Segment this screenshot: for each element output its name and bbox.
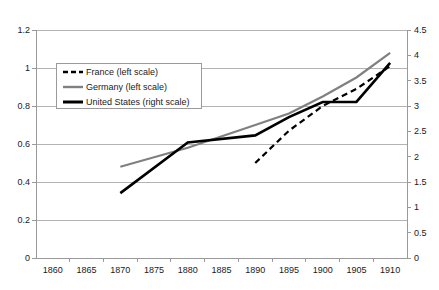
y-axis-right-tick-label: 1.5 bbox=[414, 177, 439, 187]
legend-label-united-states: United States (right scale) bbox=[86, 97, 190, 107]
x-axis-tick-label: 1880 bbox=[171, 265, 205, 275]
y-axis-right-tick-label: 4 bbox=[414, 50, 439, 60]
y-axis-left-tick-label: 0.2 bbox=[2, 215, 30, 225]
x-axis-tick-label: 1870 bbox=[103, 265, 137, 275]
x-axis-tick-label: 1865 bbox=[70, 265, 104, 275]
y-axis-left-tick-label: 1.2 bbox=[2, 25, 30, 35]
legend-item-france: France (left scale) bbox=[57, 64, 201, 79]
y-axis-right-tick-label: 4.5 bbox=[414, 25, 439, 35]
x-axis-tick-label: 1895 bbox=[272, 265, 306, 275]
series-line bbox=[255, 66, 390, 163]
x-axis-tick-label: 1910 bbox=[373, 265, 407, 275]
legend-item-united-states: United States (right scale) bbox=[57, 94, 201, 109]
y-axis-left-tick-label: 0.6 bbox=[2, 139, 30, 149]
x-axis-tick-label: 1860 bbox=[36, 265, 70, 275]
y-axis-right-tick-label: 0 bbox=[414, 253, 439, 263]
y-axis-right-tick-label: 0.5 bbox=[414, 228, 439, 238]
figure-caption bbox=[10, 283, 430, 290]
y-axis-right-tick-label: 3 bbox=[414, 101, 439, 111]
x-axis-tick-label: 1905 bbox=[339, 265, 373, 275]
x-axis-tick-label: 1900 bbox=[306, 265, 340, 275]
y-axis-left-tick-label: 0 bbox=[2, 253, 30, 263]
legend-label-france: France (left scale) bbox=[86, 67, 158, 77]
chart-legend: France (left scale) Germany (left scale)… bbox=[56, 63, 202, 109]
y-axis-right-tick-label: 2 bbox=[414, 152, 439, 162]
x-axis-tick-label: 1890 bbox=[238, 265, 272, 275]
y-axis-left-tick-label: 0.4 bbox=[2, 177, 30, 187]
chart-figure: France (left scale) Germany (left scale)… bbox=[0, 0, 439, 290]
legend-label-germany: Germany (left scale) bbox=[86, 82, 167, 92]
y-axis-left-tick-label: 1 bbox=[2, 63, 30, 73]
y-axis-right-tick-label: 3.5 bbox=[414, 76, 439, 86]
y-axis-left-tick-label: 0.8 bbox=[2, 101, 30, 111]
gray-line-swatch bbox=[62, 82, 84, 92]
x-axis-tick-label: 1875 bbox=[137, 265, 171, 275]
x-axis-tick-label: 1885 bbox=[205, 265, 239, 275]
y-axis-right-tick-label: 1 bbox=[414, 202, 439, 212]
legend-item-germany: Germany (left scale) bbox=[57, 79, 201, 94]
dashed-line-swatch bbox=[62, 67, 84, 77]
black-line-swatch bbox=[62, 97, 84, 107]
chart-plot-area bbox=[0, 0, 439, 290]
y-axis-right-tick-label: 2.5 bbox=[414, 126, 439, 136]
